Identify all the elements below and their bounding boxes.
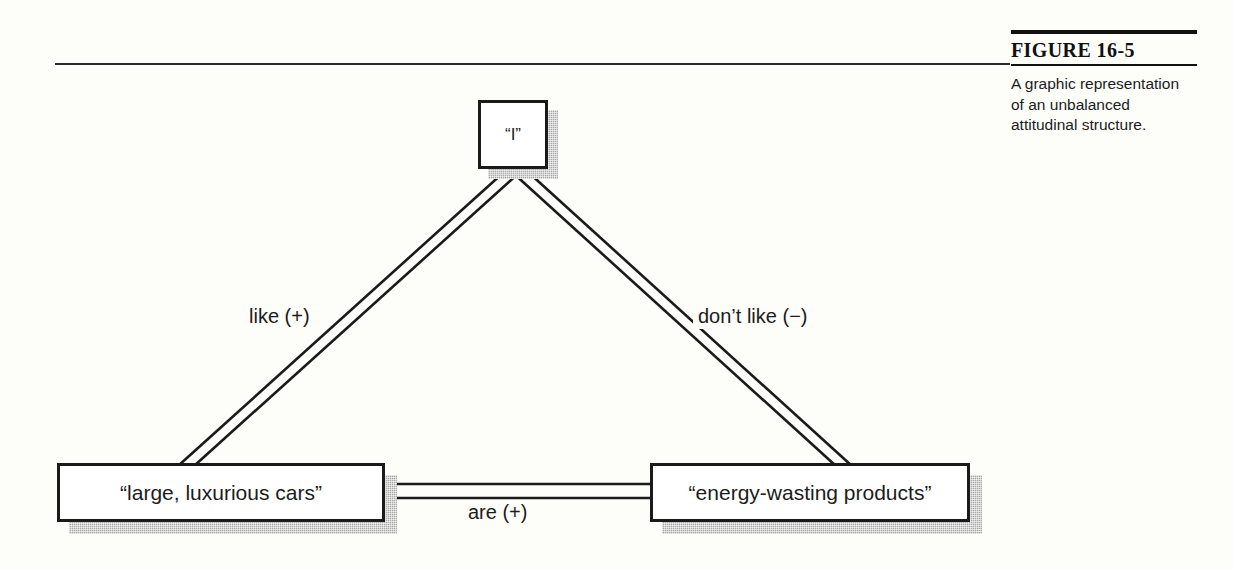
node-products-label: “energy-wasting products” (689, 481, 932, 505)
node-large-luxurious-cars: “large, luxurious cars” (57, 463, 385, 522)
figure-number-label: FIGURE 16-5 (1011, 34, 1211, 64)
connector-like-line-b (194, 172, 520, 466)
connector-like-line-a (178, 172, 504, 466)
figure-caption-block: FIGURE 16-5 A graphic representation of … (1011, 30, 1211, 136)
node-cars-label: “large, luxurious cars” (120, 481, 322, 505)
edge-label-are: are (+) (463, 500, 532, 525)
figure-caption-text: A graphic representation of an unbalance… (1011, 66, 1191, 136)
edge-label-like: like (+) (244, 304, 315, 329)
edge-label-dont-like: don’t like (−) (693, 304, 813, 329)
node-self-label: “I” (505, 125, 521, 145)
node-energy-wasting-products: “energy-wasting products” (650, 463, 970, 522)
figure-drawing-area: “I” “large, luxurious cars” “energy-wast… (0, 0, 1010, 570)
figure-page: “I” “large, luxurious cars” “energy-wast… (0, 0, 1233, 570)
node-self: “I” (478, 100, 548, 169)
